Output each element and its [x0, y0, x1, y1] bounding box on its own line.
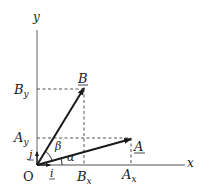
vector-a-label: A [133, 139, 143, 154]
unit-j-label: j [26, 148, 33, 161]
y-axis-label: y [32, 10, 40, 24]
b-y-label: By [13, 82, 30, 99]
angle-beta-label: β [54, 140, 61, 153]
a-x-label: Ax [121, 167, 136, 184]
angle-alpha-label: α [67, 151, 75, 164]
x-axis-label: x [187, 156, 194, 170]
origin-label: O [23, 169, 34, 184]
angle-beta-arc [45, 151, 52, 161]
vector-diagram: y x O B A By Ay Bx Ax i j α β [0, 0, 206, 191]
vector-b-label: B [77, 71, 88, 86]
a-y-label: Ay [13, 130, 29, 147]
unit-i-label: i [50, 167, 54, 180]
diagram-canvas: y x O B A By Ay Bx Ax i j α β [0, 0, 206, 191]
b-x-label: Bx [76, 169, 92, 186]
